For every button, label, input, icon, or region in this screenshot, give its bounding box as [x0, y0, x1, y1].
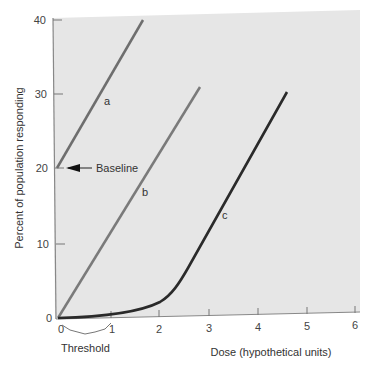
y-tick-label: 40: [34, 14, 46, 26]
y-axis-title: Percent of population responding: [13, 87, 25, 248]
x-tick-label: 6: [352, 319, 358, 331]
baseline-label: Baseline: [96, 162, 138, 174]
threshold-label: Threshold: [61, 342, 110, 354]
y-tick-label: 10: [37, 238, 49, 250]
y-tick-label: 20: [36, 162, 48, 174]
x-tick-label: 3: [206, 322, 212, 334]
y-tick-label: 0: [46, 312, 52, 324]
x-axis-title: Dose (hypothetical units): [210, 346, 331, 358]
x-tick-label: 0: [58, 323, 64, 335]
dose-response-chart: 40 30 20 10 0 0 1 2 3 4 5 6 Threshold a …: [0, 0, 372, 367]
y-tick-label: 30: [35, 88, 47, 100]
threshold-brace: [62, 323, 111, 334]
curve-label-b: b: [142, 186, 148, 198]
x-tick-label: 5: [304, 320, 310, 332]
x-tick-label: 2: [156, 323, 162, 335]
x-tick-label: 4: [255, 321, 261, 333]
curve-label-c: c: [222, 209, 228, 221]
curve-label-a: a: [104, 95, 111, 107]
